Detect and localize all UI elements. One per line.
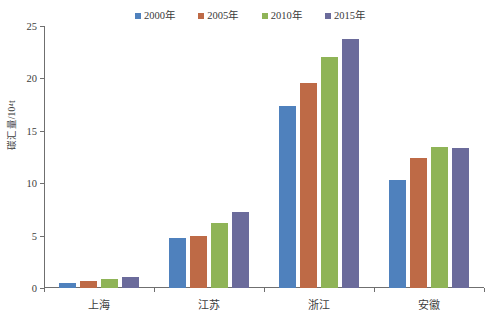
x-axis-separator	[44, 288, 45, 292]
x-axis-separator	[264, 288, 265, 292]
legend-swatch-icon	[262, 13, 268, 19]
legend-item-label: 2015年	[334, 11, 365, 22]
legend-item[interactable]: 2000年	[135, 11, 175, 22]
legend-item-label: 2010年	[271, 11, 302, 22]
plot-area: 0510152025 上海江苏浙江安徽	[44, 26, 484, 288]
x-axis-separator	[484, 288, 485, 292]
bar-chart: 2000年2005年2010年2015年 碳汇量/10⁴t 0510152025…	[0, 0, 489, 325]
bar-group: 浙江	[264, 26, 374, 288]
y-axis-tick-label: 10	[27, 178, 38, 189]
legend-swatch-icon	[198, 13, 204, 19]
bar-group: 安徽	[374, 26, 484, 288]
bar[interactable]	[389, 180, 406, 288]
legend-item[interactable]: 2015年	[325, 11, 365, 22]
bar[interactable]	[211, 223, 228, 288]
legend-item[interactable]: 2005年	[198, 11, 238, 22]
bar[interactable]	[122, 277, 139, 288]
bar[interactable]	[169, 238, 186, 288]
y-axis-title: 碳汇量/10⁴t	[4, 83, 18, 167]
bar-groups: 上海江苏浙江安徽	[44, 26, 484, 288]
y-axis-tick-label: 25	[27, 21, 38, 32]
legend-item-label: 2000年	[144, 11, 175, 22]
x-axis-category-label: 浙江	[264, 296, 374, 312]
y-axis-tick-label: 20	[27, 73, 38, 84]
bar[interactable]	[452, 148, 469, 288]
legend-swatch-icon	[325, 13, 331, 19]
x-axis-category-label: 安徽	[374, 296, 484, 312]
bar[interactable]	[321, 57, 338, 288]
bar[interactable]	[279, 106, 296, 288]
bar[interactable]	[431, 147, 448, 288]
x-axis-category-label: 江苏	[154, 296, 264, 312]
x-axis-separator	[374, 288, 375, 292]
y-axis-tick-label: 0	[32, 283, 37, 294]
bar-group: 上海	[44, 26, 154, 288]
chart-legend: 2000年2005年2010年2015年	[135, 8, 365, 24]
bar-group: 江苏	[154, 26, 264, 288]
bar[interactable]	[342, 39, 359, 288]
legend-swatch-icon	[135, 13, 141, 19]
bar[interactable]	[300, 83, 317, 288]
bar[interactable]	[80, 281, 97, 288]
bar[interactable]	[59, 283, 76, 288]
bar[interactable]	[410, 158, 427, 288]
legend-item[interactable]: 2010年	[262, 11, 302, 22]
x-axis-category-label: 上海	[44, 296, 154, 312]
bar[interactable]	[232, 212, 249, 289]
bar[interactable]	[190, 236, 207, 288]
x-axis-separator	[154, 288, 155, 292]
legend-item-label: 2005年	[207, 11, 238, 22]
bar[interactable]	[101, 279, 118, 288]
y-axis-tick-label: 5	[32, 230, 37, 241]
y-axis-tick-label: 15	[27, 125, 38, 136]
